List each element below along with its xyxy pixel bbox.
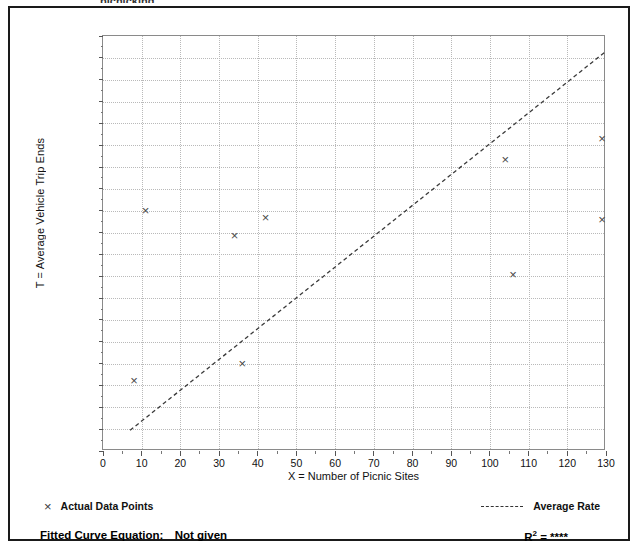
r-squared-value: **** (550, 531, 568, 543)
chart-page: picnicking T = Average Vehicle Trip Ends… (0, 0, 638, 548)
x-tick-mark (219, 451, 220, 456)
x-tick-mark (567, 451, 568, 456)
x-tick-mark (489, 451, 490, 456)
x-tick-label: 70 (354, 457, 394, 469)
cut-off-title: picnicking (100, 0, 260, 3)
x-tick-label: 90 (431, 457, 471, 469)
x-tick-minor (238, 451, 239, 454)
legend-average-rate: Average Rate (481, 500, 600, 512)
chart-frame: T = Average Vehicle Trip Ends X = Number… (8, 6, 630, 541)
x-tick-minor (431, 451, 432, 454)
x-tick-label: 0 (83, 457, 123, 469)
x-axis-title: X = Number of Picnic Sites (102, 470, 605, 482)
data-point-marker (598, 134, 607, 143)
x-tick-mark (335, 451, 336, 456)
x-tick-mark (141, 451, 142, 456)
data-point-marker (509, 270, 518, 279)
r-squared-label: R (524, 531, 532, 543)
legend-dashed-line-icon (481, 506, 523, 507)
average-rate-line (103, 36, 606, 451)
x-tick-mark (180, 451, 181, 456)
r-squared-statistic: R2 = **** (524, 529, 568, 543)
r-squared-equals: = (540, 531, 547, 543)
fitted-curve-equation: Fitted Curve Equation: Not given (40, 529, 227, 541)
x-tick-label: 110 (509, 457, 549, 469)
data-point-marker (230, 231, 239, 240)
x-tick-mark (373, 451, 374, 456)
x-tick-minor (315, 451, 316, 454)
legend-x-marker-icon: × (44, 501, 52, 512)
r-squared-exponent: 2 (533, 529, 537, 538)
x-tick-mark (412, 451, 413, 456)
legend-actual-data-points: × Actual Data Points (44, 500, 153, 512)
fitted-curve-equation-value: Not given (175, 529, 227, 541)
x-tick-minor (199, 451, 200, 454)
x-tick-mark (257, 451, 258, 456)
legend-actual-data-points-label: Actual Data Points (61, 500, 154, 512)
x-tick-label: 20 (160, 457, 200, 469)
x-tick-label: 30 (199, 457, 239, 469)
x-tick-minor (122, 451, 123, 454)
x-tick-label: 10 (122, 457, 162, 469)
x-tick-label: 60 (315, 457, 355, 469)
x-tick-label: 100 (470, 457, 510, 469)
x-tick-minor (161, 451, 162, 454)
data-point-marker (238, 359, 247, 368)
data-point-marker (129, 376, 138, 385)
average-rate-trendline (130, 51, 606, 430)
x-tick-label: 120 (547, 457, 587, 469)
x-tick-label: 50 (276, 457, 316, 469)
data-point-marker (598, 215, 607, 224)
x-tick-minor (470, 451, 471, 454)
x-tick-minor (547, 451, 548, 454)
data-point-marker (261, 213, 270, 222)
x-tick-label: 80 (393, 457, 433, 469)
x-tick-mark (528, 451, 529, 456)
x-tick-minor (354, 451, 355, 454)
data-point-marker (501, 155, 510, 164)
plot-area: 01002003004005006007008009001,0001,1001,… (102, 35, 605, 450)
y-axis-title: T = Average Vehicle Trip Ends (34, 138, 52, 288)
x-tick-minor (509, 451, 510, 454)
x-tick-mark (451, 451, 452, 456)
x-tick-mark (296, 451, 297, 456)
x-tick-minor (277, 451, 278, 454)
x-tick-label: 40 (238, 457, 278, 469)
x-tick-mark (103, 451, 104, 456)
data-point-marker (141, 206, 150, 215)
x-tick-label: 130 (586, 457, 626, 469)
fitted-curve-equation-label: Fitted Curve Equation: (40, 529, 163, 541)
x-tick-mark (606, 451, 607, 456)
x-tick-minor (393, 451, 394, 454)
legend-average-rate-label: Average Rate (533, 500, 600, 512)
x-tick-minor (586, 451, 587, 454)
